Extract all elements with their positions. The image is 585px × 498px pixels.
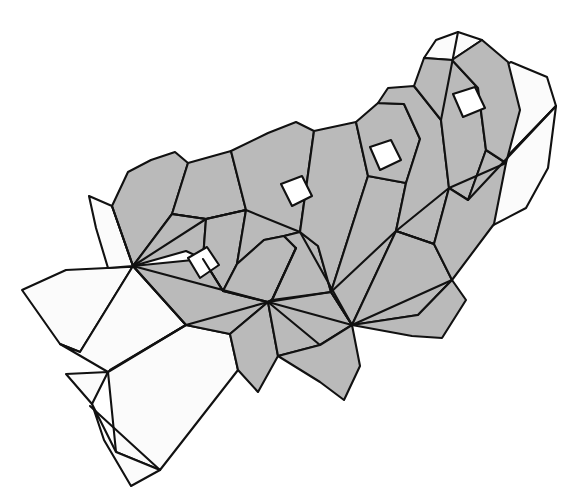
figure-root: Polyhedron net diagram Unfolded net of a… [0, 0, 585, 498]
polyhedron-net-figure [0, 0, 585, 498]
